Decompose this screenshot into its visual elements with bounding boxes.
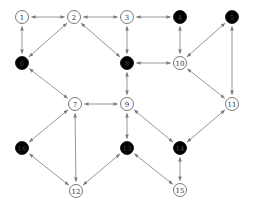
node-2: 2 xyxy=(68,11,81,24)
node-label: 4 xyxy=(178,14,183,22)
node-label: 5 xyxy=(230,14,234,22)
node-label: 3 xyxy=(125,14,129,22)
edge-11-14 xyxy=(187,110,224,142)
node-14: 14 xyxy=(174,142,187,155)
node-13: 13 xyxy=(121,142,134,155)
edge-13-15 xyxy=(134,154,172,184)
node-label: 6 xyxy=(20,60,25,68)
edge-9-14 xyxy=(134,110,172,142)
node-label: 8 xyxy=(125,60,129,68)
node-8: 8 xyxy=(121,57,134,70)
node-label: 12 xyxy=(72,188,81,196)
node-12: 12 xyxy=(70,185,83,198)
node-label: 16 xyxy=(18,145,27,153)
node-9: 9 xyxy=(121,98,134,111)
node-4: 4 xyxy=(174,11,187,24)
edge-12-13 xyxy=(83,154,119,185)
node-label: 10 xyxy=(176,60,185,68)
node-label: 7 xyxy=(73,101,77,109)
node-11: 11 xyxy=(226,98,239,111)
edge-2-8 xyxy=(81,23,120,57)
node-label: 2 xyxy=(72,14,76,22)
node-label: 11 xyxy=(228,101,237,109)
edge-5-10 xyxy=(187,23,225,56)
node-3: 3 xyxy=(121,11,134,24)
node-label: 14 xyxy=(176,145,185,153)
node-15: 15 xyxy=(174,184,187,197)
node-label: 13 xyxy=(123,145,132,153)
node-10: 10 xyxy=(174,57,187,70)
graph-diagram: 12345678910111213141516 xyxy=(0,0,253,207)
node-label: 15 xyxy=(176,187,185,195)
node-1: 1 xyxy=(16,11,29,24)
node-label: 1 xyxy=(20,14,24,22)
node-16: 16 xyxy=(16,142,29,155)
edge-6-7 xyxy=(30,69,68,98)
edge-10-11 xyxy=(187,69,224,98)
edge-2-6 xyxy=(29,23,67,56)
node-5: 5 xyxy=(226,11,239,24)
edge-12-16 xyxy=(29,154,68,185)
node-label: 9 xyxy=(125,101,129,109)
edge-7-16 xyxy=(29,110,67,142)
node-6: 6 xyxy=(16,57,29,70)
node-7: 7 xyxy=(69,98,82,111)
edge-7-12 xyxy=(75,113,76,181)
